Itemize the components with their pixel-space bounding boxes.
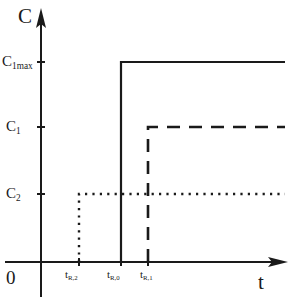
y-tick-label-c1-base: C [6, 118, 16, 134]
y-tick-label-c2-sub: 2 [16, 193, 21, 203]
chart-plot-area [0, 0, 299, 303]
x-tick-label-tr0: tR,0 [107, 269, 120, 280]
chart-figure: C t 0 C1max C1 C2 tR,2 tR,0 tR,1 [0, 0, 299, 303]
y-tick-label-c1-sub: 1 [16, 126, 21, 136]
x-tick-label-tr1-sub: R,1 [143, 274, 153, 281]
y-tick-label-c1max: C1max [2, 54, 33, 69]
x-axis-label: t [258, 272, 264, 293]
y-tick-label-c1: C1 [6, 119, 21, 134]
x-tick-label-tr1: tR,1 [140, 269, 153, 280]
y-tick-label-c2: C2 [6, 186, 21, 201]
origin-label: 0 [6, 268, 16, 287]
y-tick-label-c1max-base: C [2, 53, 12, 69]
x-tick-label-tr2-sub: R,2 [68, 274, 78, 281]
curve-c1max-solid [121, 62, 285, 262]
x-tick-label-tr2: tR,2 [65, 269, 78, 280]
y-tick-label-c2-base: C [6, 185, 16, 201]
curve-c2-dotted [79, 194, 285, 262]
x-tick-label-tr0-sub: R,0 [110, 274, 120, 281]
y-axis-label: C [18, 6, 32, 27]
y-tick-label-c1max-sub: 1max [12, 61, 33, 71]
